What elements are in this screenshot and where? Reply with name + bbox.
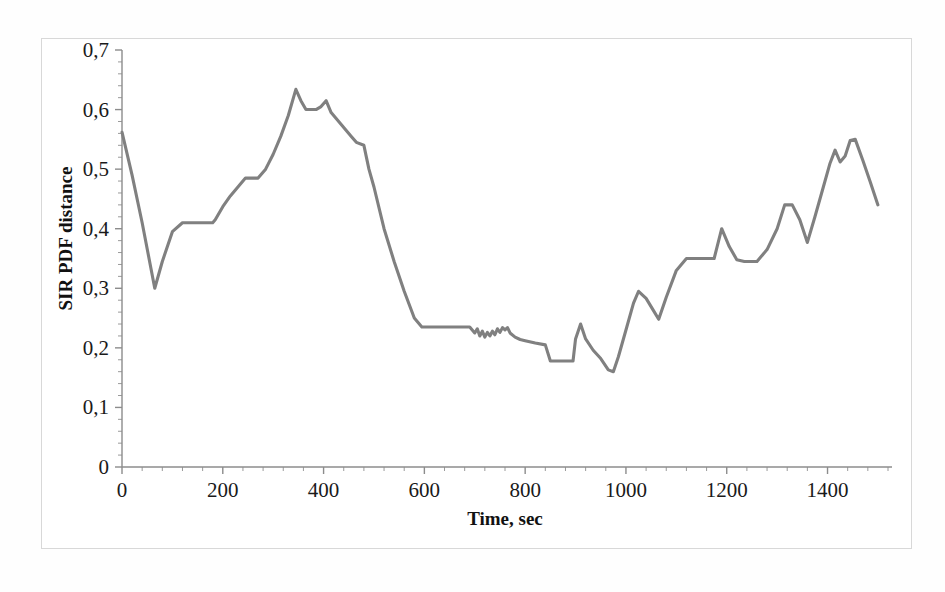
x-axis-title: Time, sec xyxy=(467,508,543,529)
svg-text:1200: 1200 xyxy=(706,478,748,502)
svg-text:200: 200 xyxy=(207,478,239,502)
svg-text:0,3: 0,3 xyxy=(83,276,109,300)
y-axis-major-ticks xyxy=(115,50,122,467)
svg-text:1400: 1400 xyxy=(807,478,849,502)
figure-page: 00,10,20,30,40,50,60,7 02004006008001000… xyxy=(0,0,945,592)
svg-text:0,6: 0,6 xyxy=(83,98,109,122)
x-axis-major-ticks xyxy=(122,467,828,474)
svg-text:0,5: 0,5 xyxy=(83,157,109,181)
data-series-line xyxy=(122,89,878,371)
y-axis-tick-labels: 00,10,20,30,40,50,60,7 xyxy=(83,38,110,479)
svg-text:800: 800 xyxy=(509,478,541,502)
svg-text:400: 400 xyxy=(308,478,340,502)
svg-text:1000: 1000 xyxy=(605,478,647,502)
svg-text:0,7: 0,7 xyxy=(83,38,109,62)
svg-text:0: 0 xyxy=(99,455,110,479)
svg-text:0,2: 0,2 xyxy=(83,336,109,360)
y-axis-title: SIR PDF distance xyxy=(55,167,76,311)
svg-text:0: 0 xyxy=(117,478,128,502)
x-axis-tick-labels: 0200400600800100012001400 xyxy=(117,478,849,502)
svg-text:0,4: 0,4 xyxy=(83,217,110,241)
svg-text:0,1: 0,1 xyxy=(83,395,109,419)
line-chart: 00,10,20,30,40,50,60,7 02004006008001000… xyxy=(0,0,945,592)
svg-text:600: 600 xyxy=(409,478,441,502)
